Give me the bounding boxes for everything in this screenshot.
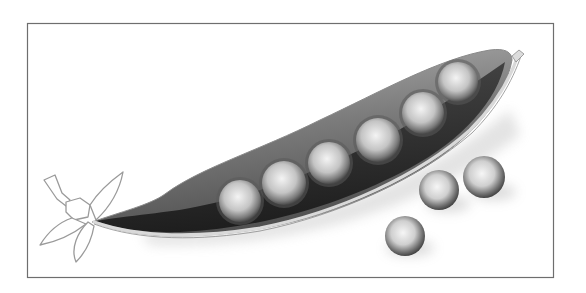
pea-pod-illustration [0, 0, 586, 293]
pea [305, 139, 353, 187]
loose-pea [419, 170, 459, 210]
pea [435, 59, 481, 105]
loose-pea [385, 216, 425, 256]
pea [399, 89, 447, 137]
pea [216, 177, 264, 225]
loose-pea [463, 156, 505, 198]
pea [353, 115, 403, 165]
pea [259, 158, 309, 208]
